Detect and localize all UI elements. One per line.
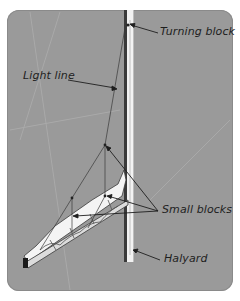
- turning-block-icon: [126, 23, 129, 26]
- small-blocks-label: Small blocks: [162, 203, 232, 216]
- small-block-icon: [71, 197, 74, 200]
- small-block-markers: [71, 23, 130, 199]
- turning-block-label: Turning block: [160, 25, 235, 38]
- furled-sail: [23, 170, 128, 268]
- sail-end: [23, 258, 28, 268]
- small-block-icon: [104, 195, 107, 198]
- light-line-label: Light line: [23, 69, 75, 82]
- mast: [124, 10, 134, 262]
- halyard-label: Halyard: [164, 252, 208, 265]
